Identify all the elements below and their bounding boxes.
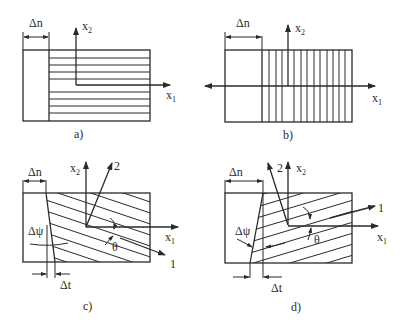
panel-b-x1-label: x1 — [372, 91, 382, 107]
panel-d-dimension-n — [225, 180, 263, 193]
panel-d-theta-label: θ — [314, 233, 320, 247]
panel-c-delta-t-label: Δt — [60, 278, 72, 292]
panel-d-delta-n-label: Δn — [229, 165, 243, 179]
panel-c-theta-label: θ — [112, 240, 118, 254]
panel-c-x2-label: x2 — [70, 161, 80, 177]
panel-a-caption: a) — [74, 127, 83, 141]
panel-c-dimension-n — [23, 180, 46, 193]
panel-d: Δn 2 x2 x1 1 θ Δψ Δt d) — [225, 159, 387, 314]
panel-a: Δn x2 x1 a) — [23, 16, 176, 141]
panel-d-delta-psi-arc — [237, 239, 252, 247]
panel-a-x2-label: x2 — [82, 19, 92, 35]
panel-b: Δn x2 x1 b) — [205, 16, 382, 142]
panel-c-delta-psi-arc — [30, 243, 68, 245]
panel-a-dimension — [23, 32, 49, 50]
panel-c-delta-psi-label: Δψ — [28, 224, 44, 238]
panel-d-x2-label: x2 — [296, 161, 306, 177]
panel-c-direction-1-label: 1 — [170, 257, 176, 271]
panel-d-x1-label: x1 — [377, 230, 387, 246]
panel-a-x1-label: x1 — [166, 88, 176, 104]
panel-c-direction-1 — [120, 238, 165, 255]
panel-c: Δn x2 2 x1 1 θ Δψ Δt c) — [23, 154, 180, 313]
panel-d-direction-2-label: 2 — [277, 161, 283, 175]
panel-d-delta-psi-label: Δψ — [235, 224, 251, 238]
panel-d-rotation-arc — [303, 207, 310, 219]
panel-d-delta-t-label: Δt — [271, 281, 283, 295]
panel-d-caption: d) — [291, 300, 301, 314]
panel-b-delta-n-label: Δn — [236, 16, 250, 30]
panel-c-caption: c) — [83, 299, 92, 313]
panel-b-caption: b) — [283, 128, 293, 142]
panel-b-x2-label: x2 — [295, 21, 305, 37]
panel-c-x1-label: x1 — [165, 230, 175, 246]
panel-b-dimension — [225, 32, 262, 50]
panel-c-direction-2-label: 2 — [114, 159, 120, 173]
fiber-orientation-diagram: Δn x2 x1 a) Δn — [0, 0, 404, 331]
panel-d-oblique-fibers — [240, 159, 380, 300]
panel-d-theta-arc — [308, 228, 311, 240]
panel-d-direction-1-label: 1 — [378, 201, 384, 215]
panel-c-delta-n-label: Δn — [28, 165, 42, 179]
panel-a-delta-n-label: Δn — [29, 16, 43, 30]
